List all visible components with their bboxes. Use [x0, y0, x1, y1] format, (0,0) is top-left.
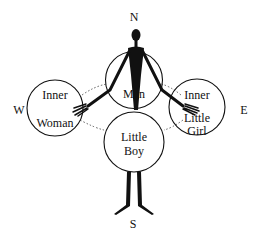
label-inner-little-girl-line3: Girl	[177, 125, 217, 138]
label-inner-woman-line2: Woman	[30, 117, 80, 130]
compass-east: E	[238, 104, 250, 117]
label-little-boy-line1: Little	[114, 131, 154, 144]
compass-west: W	[12, 104, 26, 117]
compass-south: S	[127, 218, 139, 231]
label-man: Man	[114, 88, 154, 101]
label-inner-woman-line1: Inner	[35, 89, 75, 102]
label-little-boy-line2: Boy	[114, 145, 154, 158]
compass-north: N	[128, 11, 140, 24]
label-inner-little-girl-line1: Inner	[177, 89, 217, 102]
